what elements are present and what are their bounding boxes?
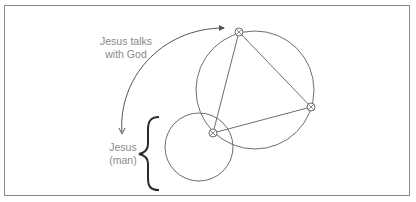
vertex-marker-left bbox=[209, 129, 217, 137]
small-circle bbox=[165, 113, 233, 181]
label-jesus-man: Jesus (man) bbox=[104, 141, 142, 167]
trinity-triangle bbox=[213, 32, 311, 133]
label-jesus-talks-with-god: Jesus talks with God bbox=[92, 35, 160, 61]
curly-brace bbox=[139, 117, 159, 190]
label-man-line1: Jesus bbox=[104, 141, 142, 154]
label-talks-line1: Jesus talks bbox=[92, 35, 160, 48]
vertex-marker-right bbox=[307, 103, 315, 111]
label-talks-line2: with God bbox=[92, 48, 160, 61]
label-man-line2: (man) bbox=[104, 154, 142, 167]
diagram-canvas bbox=[0, 0, 416, 202]
vertex-marker-top bbox=[235, 28, 243, 36]
